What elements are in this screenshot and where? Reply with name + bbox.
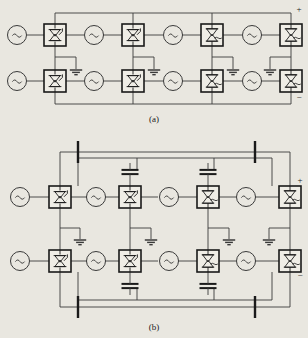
ground-icon — [74, 240, 86, 245]
ac-source-icon[interactable] — [160, 188, 179, 207]
ground-icon — [263, 240, 275, 245]
ground-icon — [223, 240, 235, 245]
panel-b: + − (b) — [11, 141, 303, 332]
ground-icon — [70, 70, 82, 75]
thyristor-icon[interactable] — [44, 24, 66, 46]
caption-panel-b: (b) — [149, 322, 160, 332]
ac-source-icon[interactable] — [11, 188, 30, 207]
ground-icon — [148, 70, 160, 75]
panel-b-rails — [60, 152, 290, 307]
ac-source-icon[interactable] — [243, 26, 262, 45]
thyristor-icon[interactable] — [122, 24, 144, 46]
ac-source-icon[interactable] — [164, 72, 183, 91]
light-triggered-thyristor-icon[interactable] — [279, 250, 301, 272]
light-triggered-thyristor-icon[interactable] — [280, 24, 302, 46]
thyristor-icon[interactable] — [122, 70, 144, 92]
light-triggered-thyristor-icon[interactable] — [279, 186, 301, 208]
light-triggered-thyristor-icon[interactable] — [280, 70, 302, 92]
panel-b-interlinks — [60, 208, 290, 250]
ac-source-icon[interactable] — [164, 26, 183, 45]
caption-panel-a: (a) — [149, 114, 159, 124]
ground-icon — [227, 70, 239, 75]
capacitor-icon — [122, 284, 139, 288]
terminal-positive-b: + — [297, 175, 302, 185]
ac-source-icon[interactable] — [243, 72, 262, 91]
panel-a-interlinks — [55, 46, 291, 70]
light-triggered-thyristor-icon[interactable] — [201, 24, 223, 46]
panel-a: + − (a) — [8, 4, 303, 124]
circuit-diagram-canvas: + − (a) — [0, 0, 308, 338]
thyristor-icon[interactable] — [44, 70, 66, 92]
thyristor-icon[interactable] — [49, 250, 71, 272]
ac-source-icon[interactable] — [8, 26, 27, 45]
ac-source-icon[interactable] — [85, 72, 104, 91]
ac-source-icon[interactable] — [11, 252, 30, 271]
ac-source-icon[interactable] — [237, 252, 256, 271]
thyristor-icon[interactable] — [119, 250, 141, 272]
light-triggered-thyristor-icon[interactable] — [201, 70, 223, 92]
rail-top-a — [55, 13, 291, 26]
terminal-positive-a: + — [296, 4, 301, 14]
panel-b-busbars — [78, 141, 255, 318]
panel-b-grounds — [74, 240, 275, 245]
ac-source-icon[interactable] — [87, 188, 106, 207]
ac-source-icon[interactable] — [87, 252, 106, 271]
ac-source-icon[interactable] — [85, 26, 104, 45]
figure-root: + − (a) — [0, 0, 308, 338]
terminal-negative-b: − — [297, 270, 302, 280]
ac-source-icon[interactable] — [8, 72, 27, 91]
ac-source-icon[interactable] — [160, 252, 179, 271]
capacitor-icon — [122, 170, 139, 174]
capacitor-icon — [200, 284, 217, 288]
ground-icon — [264, 70, 276, 75]
light-triggered-thyristor-icon[interactable] — [197, 250, 219, 272]
rail-bottom-a — [55, 92, 291, 104]
ground-icon — [145, 240, 157, 245]
ac-source-icon[interactable] — [237, 188, 256, 207]
thyristor-icon[interactable] — [119, 186, 141, 208]
panel-b-cap-leads — [130, 163, 208, 295]
capacitor-icon — [200, 170, 217, 174]
light-triggered-thyristor-icon[interactable] — [197, 186, 219, 208]
thyristor-icon[interactable] — [49, 186, 71, 208]
terminal-negative-a: − — [296, 92, 301, 102]
